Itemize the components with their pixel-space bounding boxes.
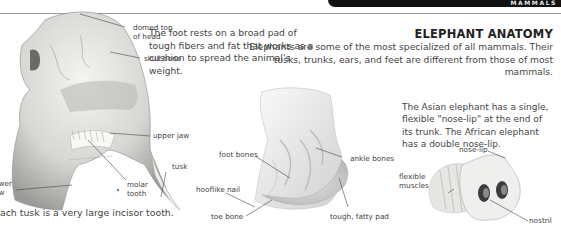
intro-paragraph: Elephants are some of the most specializ… [223, 41, 553, 79]
label-fatty-pad: tough, fatty pad [330, 212, 389, 221]
trunk-description: The Asian elephant has a single, flexibl… [402, 101, 552, 150]
label-toe-bone: toe bone [211, 212, 243, 221]
label-foot-bones: foot bones [219, 150, 258, 159]
label-molar-tooth: molar tooth [127, 180, 153, 198]
label-nose-lip: nose-lip [459, 145, 488, 154]
label-nostril: nostril [529, 216, 552, 225]
label-hooflike-nail: hooflike nail [196, 185, 240, 194]
label-lower-jaw: lower jaw [0, 179, 16, 197]
label-ankle-bones: ankle bones [350, 154, 394, 163]
label-flexible-muscles: flexible muscles [399, 172, 435, 190]
label-upper-jaw: upper jaw [153, 131, 189, 140]
label-tusk: tusk [172, 162, 188, 171]
page-title: ELEPHANT ANATOMY [414, 27, 553, 41]
trunk-tip-illustration [429, 151, 528, 221]
skull-caption: Each tusk is a very large incisor tooth. [0, 207, 174, 218]
